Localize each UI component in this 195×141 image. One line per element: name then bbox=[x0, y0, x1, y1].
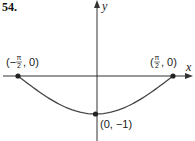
point-label-bottom: (0, −1) bbox=[100, 118, 132, 130]
svg-text:π: π bbox=[155, 54, 160, 61]
svg-text:(: ( bbox=[150, 56, 154, 68]
y-axis-arrow-icon bbox=[94, 0, 100, 8]
data-point bbox=[15, 73, 20, 78]
svg-text:π: π bbox=[17, 54, 22, 61]
x-axis-label: x bbox=[185, 60, 192, 74]
point-label-left: (− π 2 , 0) bbox=[6, 54, 39, 69]
curve-line bbox=[18, 76, 173, 114]
point-label-right: ( π 2 , 0) bbox=[150, 54, 177, 69]
data-point bbox=[93, 111, 98, 116]
svg-text:2: 2 bbox=[155, 62, 159, 69]
svg-text:(−: (− bbox=[6, 56, 16, 68]
svg-text:2: 2 bbox=[17, 62, 21, 69]
y-axis-label: y bbox=[101, 0, 108, 13]
data-point bbox=[170, 73, 175, 78]
problem-number: 54. bbox=[2, 0, 17, 14]
svg-text:, 0): , 0) bbox=[23, 56, 39, 68]
graph: 54. x y (− π 2 , 0) ( π 2 , 0) (0, −1) bbox=[0, 0, 195, 141]
svg-text:, 0): , 0) bbox=[161, 56, 177, 68]
